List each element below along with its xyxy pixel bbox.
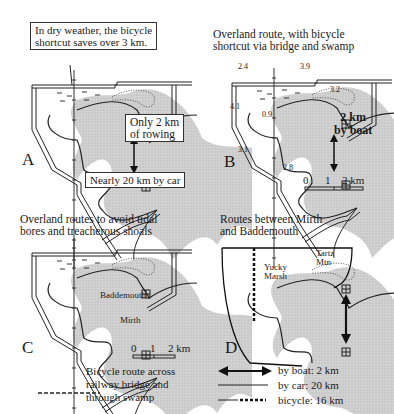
title-line: bores and treacherous shoals <box>20 225 157 237</box>
map-drawings <box>0 0 394 414</box>
callout-rowing: Only 2 km of rowing <box>125 114 184 142</box>
place-line: Marsh <box>264 272 287 281</box>
boat-label-line: by boat <box>334 124 372 137</box>
panel-d-title: Routes between Mirth and Baddemouth <box>220 213 322 237</box>
callout-dry-weather: In dry weather, the bicycle shortcut sav… <box>30 22 157 50</box>
distance-label: 4.1 <box>230 102 240 111</box>
distance-label: 2.8 <box>283 163 293 172</box>
boat-label: 2 km by boat <box>334 111 372 137</box>
scale-tick-2: 2 km <box>342 174 364 186</box>
title-line: Routes between Mirth <box>220 213 322 225</box>
scale-tick-0: 0 <box>131 342 137 354</box>
scale-tick-0: 0 <box>303 174 309 186</box>
panel-label-d: D <box>225 338 237 358</box>
panel-label-c: C <box>22 338 33 358</box>
callout-line: shortcut saves over 3 km. <box>35 36 152 48</box>
place-mirth: Mirth <box>120 316 141 325</box>
map-panel-a <box>32 65 252 270</box>
legend-car: by car: 20 km <box>278 379 339 391</box>
distance-label: 3.2 <box>330 85 340 94</box>
legend-bicycle: bicycle: 16 km <box>278 394 343 406</box>
place-line: Mtn <box>316 258 334 267</box>
note-line: through swamp <box>86 391 175 404</box>
place-baddemouth: Baddemouth <box>100 291 146 300</box>
legend-boat: by boat: 2 km <box>278 364 339 376</box>
note-line: Bicycle route across <box>86 365 175 378</box>
scale-tick-1: 1 <box>150 342 156 354</box>
callout-line: Only 2 km <box>130 116 179 128</box>
distance-label: 3.9 <box>300 62 310 71</box>
callout-line: of rowing <box>130 128 179 140</box>
note-line: railway bridge and <box>86 378 175 391</box>
panel-c-title: Overland routes to avoid tidal bores and… <box>20 213 157 237</box>
distance-label: 2.4 <box>238 62 248 71</box>
callout-car: Nearly 20 km by car <box>85 172 185 188</box>
title-line: Overland routes to avoid tidal <box>20 213 157 225</box>
place-yucky-marsh: Yucky Marsh <box>264 263 287 281</box>
map-panel-b <box>232 68 394 268</box>
place-tartz-mtn: Tartz Mtn <box>316 249 334 267</box>
scale-tick-1: 1 <box>325 174 331 186</box>
scale-tick-2: 2 km <box>168 342 190 354</box>
distance-label: 0.9 <box>262 110 272 119</box>
title-line: shortcut via bridge and swamp <box>213 40 354 52</box>
panel-label-a: A <box>22 150 34 170</box>
bicycle-note: Bicycle route across railway bridge and … <box>86 365 175 404</box>
panel-label-b: B <box>224 152 235 172</box>
distance-label: 3.1 <box>238 145 248 154</box>
title-line: Overland route, with bicycle <box>213 28 354 40</box>
callout-line: In dry weather, the bicycle <box>35 24 152 36</box>
panel-b-title: Overland route, with bicycle shortcut vi… <box>213 28 354 52</box>
title-line: and Baddemouth <box>220 225 322 237</box>
